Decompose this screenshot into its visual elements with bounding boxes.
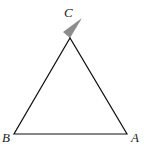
vertex-label-c: C bbox=[64, 5, 73, 20]
arrowhead-marker bbox=[63, 18, 82, 38]
triangle-abc bbox=[14, 38, 127, 134]
vertex-label-b: B bbox=[2, 130, 10, 145]
triangle-diagram: A B C bbox=[0, 0, 144, 148]
vertex-label-a: A bbox=[130, 130, 139, 145]
